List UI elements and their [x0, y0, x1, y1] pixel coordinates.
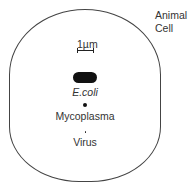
animal-label-line2: Cell: [155, 22, 187, 35]
scale-bar: [78, 50, 93, 51]
ecoli-label: E.coli: [65, 86, 105, 98]
animal-label-line1: Animal: [155, 9, 187, 22]
animal-cell-label: Animal Cell: [155, 9, 187, 35]
ecoli-shape: [73, 72, 97, 83]
mycoplasma-dot: [83, 103, 87, 107]
virus-label: Virus: [60, 136, 110, 148]
scale-label: 1µm: [77, 38, 98, 50]
mycoplasma-label: Mycoplasma: [45, 110, 125, 122]
